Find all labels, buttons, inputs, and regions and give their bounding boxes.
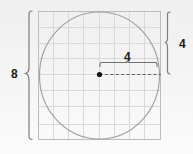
center-dot-icon <box>97 72 102 77</box>
square-side-label: 8 <box>11 68 18 80</box>
diagram-canvas: 8 4 4 <box>0 0 193 154</box>
left-curly-brace-icon <box>26 11 33 140</box>
geometry-figure <box>0 0 193 154</box>
horizontal-radius-label: 4 <box>124 51 131 63</box>
vertical-radius-label: 4 <box>179 38 186 50</box>
right-curly-brace-icon <box>165 12 170 74</box>
